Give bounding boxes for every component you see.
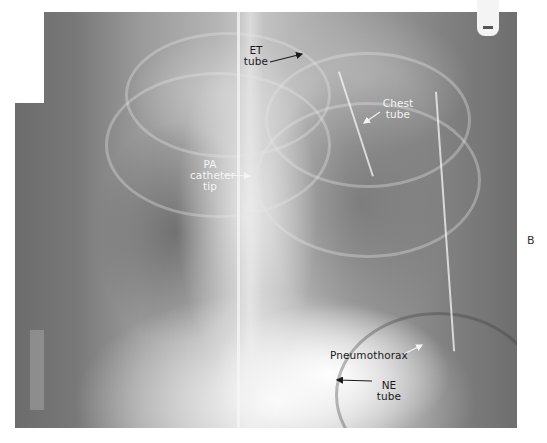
et-tube-line	[237, 12, 240, 428]
label-chest-tube: Chest tube	[378, 98, 418, 120]
external-device	[477, 0, 499, 36]
label-pneumothorax: Pneumothorax	[330, 350, 406, 361]
chest-xray-image	[15, 12, 517, 428]
label-ne-tube: NE tube	[374, 380, 404, 402]
label-line: Pneumothorax	[330, 350, 406, 361]
label-line: tube	[240, 56, 272, 67]
panel-label: B	[527, 234, 535, 247]
label-line: tube	[374, 391, 404, 402]
label-pa-catheter-tip: PA catheter tip	[190, 159, 230, 192]
label-line: tip	[190, 181, 230, 192]
label-line: tube	[378, 109, 418, 120]
external-device-slot	[483, 26, 493, 29]
image-notch	[15, 12, 44, 103]
rib-shadow	[255, 102, 481, 258]
label-et-tube: ET tube	[240, 45, 272, 67]
diaphragm-edge	[335, 312, 517, 428]
side-marker	[30, 330, 44, 410]
